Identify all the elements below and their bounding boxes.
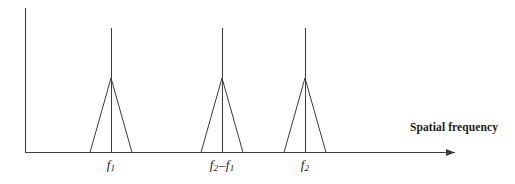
figure-canvas xyxy=(0,0,515,184)
spatial-frequency-figure: f1 f2–f1 f2 Spatial frequency xyxy=(0,0,515,184)
spectrum-components-group xyxy=(90,28,326,153)
spectrum-component xyxy=(90,28,132,153)
tick-label-f1: f1 xyxy=(107,158,116,171)
axis-group xyxy=(25,8,455,156)
spectrum-component xyxy=(284,28,326,153)
x-axis-arrowhead xyxy=(446,149,455,156)
x-axis-title: Spatial frequency xyxy=(410,122,498,134)
spectrum-component xyxy=(201,28,243,153)
tick-symbol: f1 xyxy=(107,157,116,172)
tick-symbol-2: f1 xyxy=(226,157,235,172)
tick-label-f2-minus-f1: f2–f1 xyxy=(210,158,235,171)
tick-label-f2: f2 xyxy=(301,158,310,171)
tick-symbol: f2 xyxy=(301,157,310,172)
tick-symbol: f2 xyxy=(210,157,219,172)
